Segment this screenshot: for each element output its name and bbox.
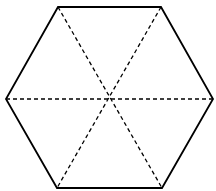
diagonal-top-left-to-bottom-right [58, 7, 162, 188]
hexagon-diagram [0, 0, 216, 191]
hexagon-outline [6, 7, 213, 188]
diagonal-top-right-to-bottom-left [57, 7, 161, 188]
dashed-diagonals [6, 7, 213, 188]
